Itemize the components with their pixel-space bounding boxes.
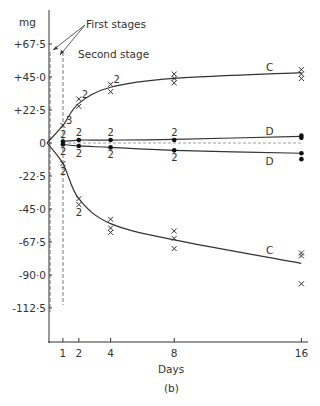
count-label: 2 (76, 148, 82, 159)
dot-marker-icon (108, 138, 113, 143)
x-marker-icon (172, 80, 177, 85)
y-unit-label: mg (19, 16, 36, 28)
axes: +67·5+45·0+22·50-22·5-45·0-67·5-90·0-112… (12, 10, 308, 359)
x-tick-label: 1 (60, 347, 67, 359)
count-label: 2 (76, 127, 82, 138)
curve-label: D (266, 155, 274, 167)
count-label: 2 (82, 89, 88, 100)
x-marker-icon (172, 229, 177, 234)
count-label: 2 (108, 127, 114, 138)
x-marker-icon (172, 246, 177, 251)
x-marker-icon (299, 67, 304, 72)
count-label: 2 (60, 129, 66, 140)
y-tick-label: -112·5 (12, 302, 46, 314)
x-marker-icon (299, 281, 304, 286)
dot-marker-icon (299, 157, 304, 162)
x-marker-icon (299, 76, 304, 81)
reference-lines (50, 25, 301, 312)
x-marker-icon (108, 82, 113, 87)
curve-label: C (266, 244, 273, 256)
count-label: 2 (171, 152, 177, 163)
x-tick-label: 16 (295, 347, 309, 359)
dot-marker-icon (77, 138, 82, 143)
x-marker-icon (108, 230, 113, 235)
x-tick-label: 2 (75, 347, 82, 359)
count-label: 2 (60, 146, 66, 157)
count-label: 2 (108, 149, 114, 160)
figure-caption: (b) (164, 382, 179, 394)
x-marker-icon (76, 104, 81, 109)
count-label: 2 (171, 127, 177, 138)
count-label: 2 (60, 166, 66, 177)
count-label: 3 (66, 115, 72, 126)
count-label: 2 (114, 74, 120, 85)
y-tick-label: -45·0 (19, 203, 46, 215)
x-marker-icon (108, 226, 113, 231)
y-tick-label: +22·5 (14, 104, 46, 116)
first-stages-annotation: First stages (86, 18, 146, 30)
x-marker-icon (299, 72, 304, 77)
curve-d-lower- (63, 144, 302, 153)
x-tick-label: 4 (107, 347, 114, 359)
dot-marker-icon (299, 151, 304, 156)
curve-label: C (266, 61, 273, 73)
second-stage-annotation: Second stage (78, 48, 149, 60)
x-marker-icon (172, 72, 177, 77)
x-marker-icon (299, 253, 304, 258)
y-tick-label: +45·0 (14, 71, 46, 83)
x-marker-icon (108, 217, 113, 222)
dot-marker-icon (172, 138, 177, 143)
count-label: 2 (76, 207, 82, 218)
y-tick-label: -22·5 (19, 170, 46, 182)
y-tick-label: +67·5 (14, 38, 46, 50)
dot-marker-icon (299, 136, 304, 141)
arrow-line (53, 25, 85, 50)
x-axis-title: Days (158, 363, 184, 375)
y-tick-label: -67·5 (19, 236, 46, 248)
x-tick-label: 8 (171, 347, 178, 359)
x-marker-icon (108, 89, 113, 94)
y-tick-label: 0 (39, 137, 46, 149)
chart: +67·5+45·0+22·50-22·5-45·0-67·5-90·0-112… (0, 0, 320, 406)
x-marker-icon (76, 196, 81, 201)
y-tick-label: -90·0 (19, 269, 46, 281)
x-marker-icon (76, 97, 81, 102)
curve-label: D (266, 125, 274, 137)
